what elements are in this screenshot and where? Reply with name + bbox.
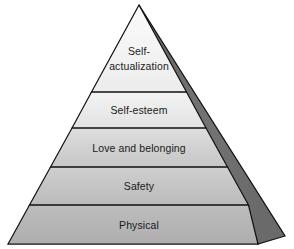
tier-label-self-actualization-line1: Self- bbox=[128, 45, 150, 57]
pyramid-graphic: Self- actualization Self-esteem Love and… bbox=[0, 0, 294, 249]
tier-label-love-and-belonging: Love and belonging bbox=[92, 142, 186, 154]
tier-label-self-esteem: Self-esteem bbox=[110, 104, 167, 116]
pyramid-diagram: Self- actualization Self-esteem Love and… bbox=[0, 0, 294, 249]
tier-label-physical: Physical bbox=[119, 219, 159, 231]
tier-label-self-actualization-line2: actualization bbox=[109, 60, 169, 72]
tier-label-safety: Safety bbox=[124, 180, 155, 192]
